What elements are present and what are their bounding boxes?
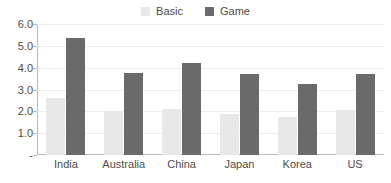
bar-group bbox=[95, 24, 153, 155]
x-axis-tick-label: Japan bbox=[210, 158, 268, 170]
y-axis-tick-label: 1.0 bbox=[1, 128, 33, 139]
x-axis-tick-label: China bbox=[153, 158, 211, 170]
x-axis-tick-label: India bbox=[37, 158, 95, 170]
y-tick-mark bbox=[33, 155, 37, 156]
bar-group bbox=[37, 24, 95, 155]
x-axis-tick-label: Korea bbox=[268, 158, 326, 170]
bar-group bbox=[268, 24, 326, 155]
y-axis-tick-label: 4.0 bbox=[1, 62, 33, 73]
y-axis-tick-label: - bbox=[1, 150, 33, 161]
y-axis-tick-label: 6.0 bbox=[1, 19, 33, 30]
bar-basic-australia[interactable] bbox=[104, 111, 123, 155]
legend-label-basic: Basic bbox=[156, 6, 183, 17]
x-axis-tick-label: US bbox=[326, 158, 384, 170]
y-axis-tick-label: 2.0 bbox=[1, 106, 33, 117]
legend-item-basic[interactable]: Basic bbox=[141, 6, 183, 17]
square-swatch-icon bbox=[141, 7, 150, 16]
bar-basic-us[interactable] bbox=[336, 110, 355, 155]
bar-game-australia[interactable] bbox=[124, 73, 143, 155]
bar-game-us[interactable] bbox=[356, 74, 375, 155]
bar-game-china[interactable] bbox=[182, 63, 201, 155]
bar-basic-korea[interactable] bbox=[278, 117, 297, 155]
bar-group bbox=[326, 24, 384, 155]
bar-game-japan[interactable] bbox=[240, 74, 259, 155]
square-swatch-icon bbox=[205, 7, 214, 16]
x-axis-tick-label: Australia bbox=[95, 158, 153, 170]
legend-item-game[interactable]: Game bbox=[205, 6, 250, 17]
bar-basic-japan[interactable] bbox=[220, 114, 239, 155]
bar-chart: Basic Game 6.05.04.03.02.01.0- IndiaAust… bbox=[0, 0, 391, 183]
legend-label-game: Game bbox=[220, 6, 250, 17]
y-axis-tick-label: 3.0 bbox=[1, 84, 33, 95]
bar-game-india[interactable] bbox=[66, 38, 85, 155]
chart-legend: Basic Game bbox=[0, 6, 391, 17]
bar-game-korea[interactable] bbox=[298, 84, 317, 155]
bar-group bbox=[153, 24, 211, 155]
y-axis: 6.05.04.03.02.01.0- bbox=[0, 24, 33, 155]
bar-basic-china[interactable] bbox=[162, 109, 181, 155]
bars-layer bbox=[37, 24, 384, 155]
x-axis: IndiaAustraliaChinaJapanKoreaUS bbox=[37, 158, 384, 170]
bar-group bbox=[210, 24, 268, 155]
y-axis-tick-label: 5.0 bbox=[1, 40, 33, 51]
bar-basic-india[interactable] bbox=[46, 98, 65, 155]
